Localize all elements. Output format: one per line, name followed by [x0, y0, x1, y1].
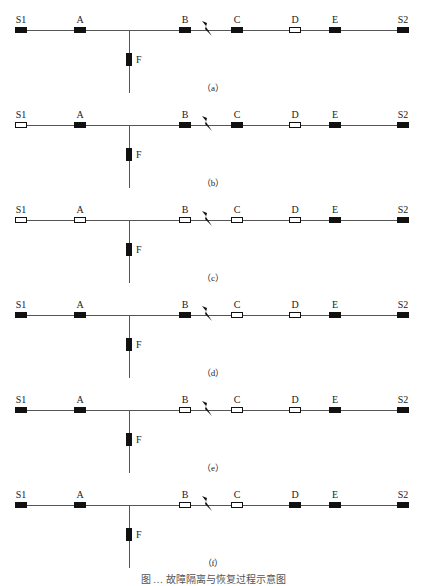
switch-a: [74, 312, 86, 318]
switch-label: C: [234, 489, 241, 500]
switch-d: [289, 217, 301, 223]
switch-label: D: [291, 299, 298, 310]
switch-label: F: [136, 434, 142, 445]
switch-label: A: [76, 299, 83, 310]
switch-b: [179, 217, 191, 223]
panel-caption: （e）: [0, 461, 426, 474]
panel-a: S1ABCDES2F（a）: [0, 0, 426, 95]
switch-label: E: [332, 299, 338, 310]
panel-caption: （a）: [0, 81, 426, 94]
switch-s1: [15, 122, 27, 128]
switch-s2: [397, 407, 409, 413]
switch-s1: [15, 312, 27, 318]
switch-c: [231, 27, 243, 33]
switch-label: F: [136, 54, 142, 65]
switch-label: B: [182, 14, 189, 25]
switch-f: [126, 433, 132, 446]
switch-label: F: [136, 244, 142, 255]
switch-label: E: [332, 14, 338, 25]
panel-d: S1ABCDES2F（d）: [0, 285, 426, 380]
switch-label: S1: [16, 204, 27, 215]
switch-d: [289, 407, 301, 413]
switch-f: [126, 53, 132, 66]
switch-label: S2: [398, 394, 409, 405]
switch-label: F: [136, 149, 142, 160]
switch-label: C: [234, 204, 241, 215]
switch-s2: [397, 312, 409, 318]
switch-label: A: [76, 394, 83, 405]
switch-label: C: [234, 394, 241, 405]
switch-label: A: [76, 109, 83, 120]
switch-label: S2: [398, 109, 409, 120]
panel-c: S1ABCDES2F（c）: [0, 190, 426, 285]
switch-label: S1: [16, 109, 27, 120]
switch-label: B: [182, 394, 189, 405]
switch-label: S1: [16, 299, 27, 310]
switch-c: [231, 502, 243, 508]
switch-label: B: [182, 109, 189, 120]
switch-f: [126, 148, 132, 161]
switch-f: [126, 243, 132, 256]
switch-a: [74, 27, 86, 33]
switch-c: [231, 407, 243, 413]
switch-label: E: [332, 489, 338, 500]
switch-c: [231, 312, 243, 318]
switch-label: E: [332, 204, 338, 215]
switch-s2: [397, 217, 409, 223]
switch-e: [329, 217, 341, 223]
panel-f: S1ABCDES2F（f）: [0, 475, 426, 570]
switch-d: [289, 122, 301, 128]
switch-s2: [397, 122, 409, 128]
switch-e: [329, 407, 341, 413]
switch-d: [289, 27, 301, 33]
switch-a: [74, 122, 86, 128]
switch-label: E: [332, 394, 338, 405]
lightning-bolt-icon: [200, 20, 214, 38]
switch-label: B: [182, 299, 189, 310]
switch-label: S2: [398, 299, 409, 310]
switch-s2: [397, 27, 409, 33]
switch-s2: [397, 502, 409, 508]
switch-label: C: [234, 109, 241, 120]
switch-s1: [15, 27, 27, 33]
panel-e: S1ABCDES2F（e）: [0, 380, 426, 475]
switch-a: [74, 502, 86, 508]
switch-d: [289, 312, 301, 318]
switch-a: [74, 407, 86, 413]
switch-label: S1: [16, 489, 27, 500]
lightning-bolt-icon: [200, 210, 214, 228]
panel-b: S1ABCDES2F（b）: [0, 95, 426, 190]
lightning-bolt-icon: [200, 495, 214, 513]
switch-label: A: [76, 489, 83, 500]
switch-f: [126, 528, 132, 541]
switch-s1: [15, 502, 27, 508]
lightning-bolt-icon: [200, 305, 214, 323]
switch-label: C: [234, 14, 241, 25]
switch-b: [179, 27, 191, 33]
switch-label: S1: [16, 394, 27, 405]
switch-label: S1: [16, 14, 27, 25]
panel-caption: （d）: [0, 366, 426, 379]
panel-caption: （f）: [0, 556, 426, 569]
switch-label: A: [76, 14, 83, 25]
switch-label: S2: [398, 14, 409, 25]
switch-d: [289, 502, 301, 508]
switch-label: D: [291, 109, 298, 120]
switch-label: D: [291, 14, 298, 25]
switch-f: [126, 338, 132, 351]
switch-label: D: [291, 489, 298, 500]
panel-caption: （c）: [0, 271, 426, 284]
switch-e: [329, 502, 341, 508]
switch-label: A: [76, 204, 83, 215]
switch-label: S2: [398, 489, 409, 500]
lightning-bolt-icon: [200, 400, 214, 418]
switch-a: [74, 217, 86, 223]
switch-label: F: [136, 529, 142, 540]
switch-b: [179, 122, 191, 128]
switch-label: D: [291, 394, 298, 405]
switch-label: B: [182, 204, 189, 215]
switch-label: B: [182, 489, 189, 500]
switch-s1: [15, 407, 27, 413]
switch-label: S2: [398, 204, 409, 215]
lightning-bolt-icon: [200, 115, 214, 133]
